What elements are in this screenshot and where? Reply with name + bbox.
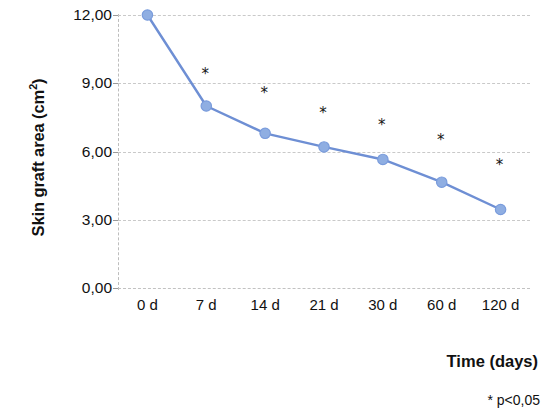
x-axis-title: Time (days) xyxy=(0,352,538,371)
plot-area: ****** xyxy=(118,15,530,288)
y-axis-title-superscript: 2 xyxy=(27,84,39,90)
chart-figure: Skin graft area (cm2) 0,003,006,009,0012… xyxy=(0,0,552,420)
significance-asterisk: * xyxy=(378,118,386,133)
y-axis-tick-label: 3,00 xyxy=(50,212,112,228)
significance-asterisk: * xyxy=(496,158,504,173)
data-point-marker xyxy=(142,10,152,20)
x-axis-tick-label: 60 d xyxy=(427,296,456,313)
y-axis-title-tail: ) xyxy=(29,78,47,83)
significance-asterisk: * xyxy=(202,67,210,82)
y-axis-tick-label: 6,00 xyxy=(50,144,112,160)
x-axis-tick-label: 120 d xyxy=(482,296,520,313)
y-axis-tick-label: 9,00 xyxy=(50,75,112,91)
significance-asterisk: * xyxy=(319,105,327,120)
data-point-marker xyxy=(378,154,388,164)
data-point-marker xyxy=(495,204,505,214)
significance-asterisk: * xyxy=(437,133,445,148)
y-axis-title: Skin graft area (cm2) xyxy=(29,23,48,293)
x-axis-tick-labels: 0 d7 d14 d21 d30 d60 d120 d xyxy=(118,296,530,320)
data-point-marker xyxy=(437,177,447,187)
data-point-marker xyxy=(201,101,211,111)
x-axis-tick-label: 30 d xyxy=(368,296,397,313)
data-point-marker xyxy=(260,128,270,138)
y-axis-title-text: Skin graft area (cm xyxy=(29,90,47,237)
gridline xyxy=(118,288,530,289)
series-line-chart xyxy=(118,15,530,288)
x-axis-tick-label: 14 d xyxy=(251,296,280,313)
x-axis-tick-label: 7 d xyxy=(196,296,217,313)
x-axis-tick-label: 0 d xyxy=(137,296,158,313)
data-point-marker xyxy=(319,142,329,152)
significance-asterisk: * xyxy=(260,86,268,101)
y-axis-tick-label: 0,00 xyxy=(50,280,112,296)
significance-footnote: * p<0,05 xyxy=(0,392,540,408)
y-axis-tick-label: 12,00 xyxy=(50,7,112,23)
x-axis-tick-label: 21 d xyxy=(309,296,338,313)
y-axis-tickmark xyxy=(113,288,118,289)
